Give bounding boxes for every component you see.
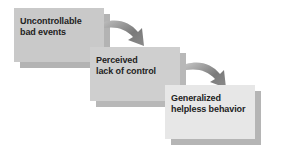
node-2-line-2: lack of control — [96, 66, 180, 77]
node-1-line-1: Uncontrollable — [20, 16, 104, 27]
node-1-line-2: bad events — [20, 27, 104, 38]
node-2-line-1: Perceived — [96, 55, 180, 66]
node-generalized-helpless-behavior: Generalized helpless behavior — [165, 85, 255, 139]
node-3-line-1: Generalized — [171, 93, 255, 104]
node-3-line-2: helpless behavior — [171, 104, 255, 115]
